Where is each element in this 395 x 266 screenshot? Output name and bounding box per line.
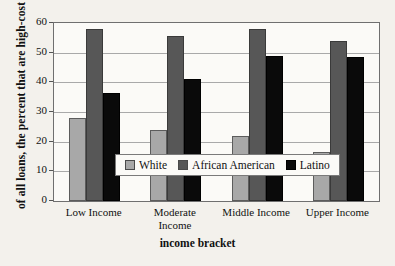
y-tick-label: 30 xyxy=(21,104,47,116)
x-axis-title: income bracket xyxy=(0,237,395,249)
bar-latino-middle-income xyxy=(266,56,283,201)
y-tick-label: 20 xyxy=(21,134,47,146)
legend-entry-african-american: African American xyxy=(178,159,275,171)
chart-legend: WhiteAfrican AmericanLatino xyxy=(115,154,340,176)
x-tick-label: Upper Income xyxy=(297,206,378,219)
bar-latino-low-income xyxy=(103,93,120,201)
legend-swatch-icon xyxy=(125,160,135,170)
y-tick-label: 0 xyxy=(21,193,47,205)
x-tick-label: Moderate Income xyxy=(134,206,215,232)
bar-african-american-upper-income xyxy=(330,41,347,201)
y-tick-label: 50 xyxy=(21,45,47,57)
legend-entry-latino: Latino xyxy=(286,159,330,171)
bar-latino-upper-income xyxy=(347,57,364,201)
y-tick-label: 60 xyxy=(21,15,47,27)
legend-entry-white: White xyxy=(125,159,167,171)
legend-label: White xyxy=(139,159,167,171)
y-tick-label: 10 xyxy=(21,163,47,175)
bar-african-american-low-income xyxy=(86,29,103,201)
legend-swatch-icon xyxy=(286,160,296,170)
bar-african-american-moderate-income xyxy=(167,36,184,201)
legend-swatch-icon xyxy=(178,160,188,170)
legend-label: Latino xyxy=(300,159,330,171)
y-tick-label: 40 xyxy=(21,74,47,86)
legend-label: African American xyxy=(192,159,275,171)
x-tick-label: Low Income xyxy=(53,206,134,219)
x-tick-label: Middle Income xyxy=(216,206,297,219)
bar-white-low-income xyxy=(69,118,86,201)
bar-chart-figure: of all loans, the percent that are high-… xyxy=(0,0,395,266)
bar-latino-moderate-income xyxy=(184,79,201,201)
